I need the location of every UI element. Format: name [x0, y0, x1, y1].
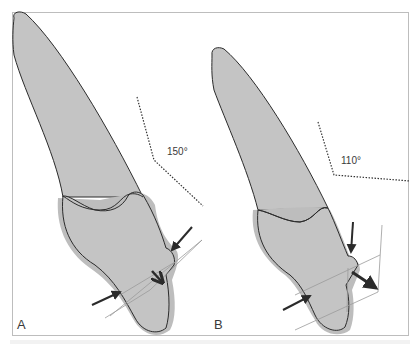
panel-label-b: B [214, 317, 223, 332]
upper-incisor-root [13, 12, 143, 197]
panel-a [13, 12, 203, 335]
lower-incisor-crown [62, 192, 174, 332]
upper-incisor-root [212, 48, 328, 210]
force-arrow-labial [92, 292, 120, 305]
figure-drawing [0, 0, 420, 347]
dental-occlusion-figure: 150° 110° A B [0, 0, 420, 347]
angle-indicator-110 [318, 122, 410, 181]
force-arrow-lingual [172, 227, 192, 250]
panel-b [212, 48, 410, 335]
bottom-band [10, 340, 410, 344]
angle-label-a: 150° [167, 146, 188, 157]
panel-label-a: A [17, 317, 26, 332]
force-arrow-lingual [351, 222, 353, 252]
angle-label-b: 110° [341, 155, 361, 166]
lower-incisor-crown [258, 208, 358, 331]
